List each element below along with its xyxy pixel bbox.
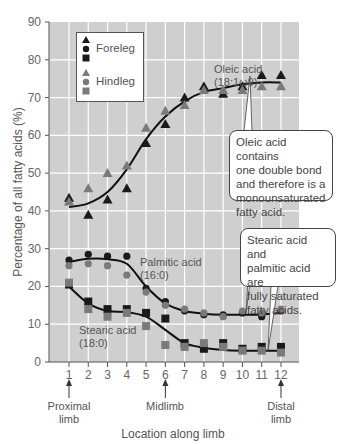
y-tick-label: 80: [28, 53, 42, 67]
midlimb-label: Midlimb: [146, 400, 184, 412]
legend-hindleg-circle-icon: [83, 79, 89, 85]
y-tick-label: 40: [28, 204, 42, 218]
x-tick-label: 11: [255, 368, 268, 382]
circle-marker-icon: [200, 309, 207, 316]
y-tick-label: 20: [28, 279, 42, 293]
x-tick-label: 5: [143, 368, 150, 382]
square-marker-icon: [65, 279, 73, 287]
square-marker-icon: [258, 347, 266, 355]
stearic-label: Stearic acid: [79, 324, 136, 336]
circle-marker-icon: [104, 262, 111, 269]
square-marker-icon: [181, 343, 189, 351]
palmitic-label: Palmitic acid: [140, 256, 202, 268]
square-marker-icon: [161, 341, 169, 349]
x-tick-label: 7: [181, 368, 188, 382]
circle-marker-icon: [239, 307, 246, 314]
proximal-label-2: limb: [59, 413, 79, 425]
circle-marker-icon: [162, 302, 169, 309]
chart: 0102030405060708090123456789101112 Oleic…: [0, 0, 346, 444]
y-tick-label: 10: [28, 317, 42, 331]
x-tick-label: 10: [236, 368, 250, 382]
proximal-label: Proximal: [48, 400, 91, 412]
circle-marker-icon: [181, 306, 188, 313]
circle-marker-icon: [123, 253, 130, 260]
x-tick-label: 8: [201, 368, 208, 382]
legend-hindleg-label: Hindleg: [96, 75, 135, 87]
x-tick-label: 4: [123, 368, 130, 382]
legend-foreleg-square-icon: [83, 55, 90, 62]
y-tick-label: 60: [28, 128, 42, 142]
y-axis-title: Percentage of all fatty acids (%): [11, 107, 25, 276]
distal-label: Distal: [267, 400, 295, 412]
square-marker-icon: [142, 322, 150, 330]
square-marker-icon: [104, 313, 112, 321]
circle-marker-icon: [123, 272, 130, 279]
y-tick-label: 90: [28, 15, 42, 29]
legend-hindleg-triangle-icon: [82, 69, 90, 76]
y-tick-label: 70: [28, 91, 42, 105]
y-tick-label: 30: [28, 242, 42, 256]
circle-marker-icon: [65, 262, 72, 269]
y-tick-label: 50: [28, 166, 42, 180]
circle-marker-icon: [85, 260, 92, 267]
square-marker-icon: [238, 347, 246, 355]
circle-marker-icon: [220, 313, 227, 320]
oleic-formula: (18:1ω9): [214, 76, 257, 88]
square-marker-icon: [142, 309, 150, 317]
palmitic-formula: (16:0): [140, 269, 169, 281]
saturated-callout: Stearic acid and palmitic acid are fully…: [240, 228, 336, 287]
square-marker-icon: [277, 349, 285, 357]
x-tick-label: 3: [104, 368, 111, 382]
circle-marker-icon: [142, 289, 149, 296]
legend-hindleg-square-icon: [83, 88, 90, 95]
legend: Foreleg Hindleg: [76, 32, 144, 102]
oleic-callout: Oleic acid contains one double bond and …: [229, 130, 333, 201]
legend-foreleg-triangle-icon: [82, 36, 90, 43]
square-marker-icon: [200, 339, 208, 347]
y-tick-label: 0: [34, 355, 41, 369]
square-marker-icon: [161, 315, 169, 323]
square-marker-icon: [84, 298, 92, 306]
x-tick-label: 9: [220, 368, 227, 382]
oleic-label: Oleic acid: [214, 63, 262, 75]
x-tick-label: 2: [85, 368, 92, 382]
stearic-formula: (18:0): [79, 337, 108, 349]
legend-foreleg-label: Foreleg: [96, 42, 135, 54]
square-marker-icon: [104, 305, 112, 313]
legend-foreleg-circle-icon: [83, 46, 89, 52]
circle-marker-icon: [85, 251, 92, 258]
square-marker-icon: [84, 305, 92, 313]
distal-label-2: limb: [271, 413, 291, 425]
square-marker-icon: [123, 309, 131, 317]
square-marker-icon: [219, 343, 227, 351]
circle-marker-icon: [104, 253, 111, 260]
x-axis-title: Location along limb: [121, 427, 225, 441]
